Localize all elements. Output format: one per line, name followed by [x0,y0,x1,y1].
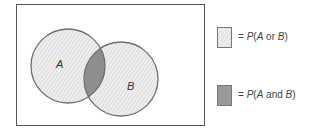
legend-swatch-union [218,28,232,48]
paren-close: ) [292,89,295,100]
legend-swatch-intersection [218,86,232,106]
circle-a-label: A [55,58,63,70]
conj-or: or [263,31,277,42]
legend-intersection-text: = P(A and B) [238,89,296,100]
venn-diagram: A B [0,0,318,132]
paren-close: ) [284,31,287,42]
equals-sign: = [238,31,244,42]
equals-sign: = [238,89,244,100]
conj-and: and [263,89,285,100]
legend-union-text: = P(A or B) [238,31,288,42]
circle-b-label: B [127,80,134,92]
